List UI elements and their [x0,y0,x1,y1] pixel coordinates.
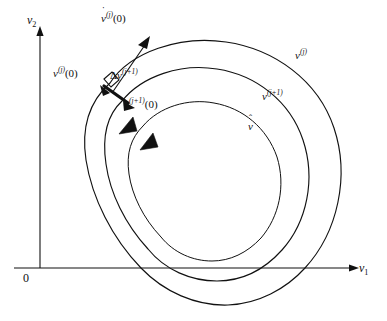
tangent-vector-arrowhead [138,36,150,49]
label-sup: (j) [300,47,307,56]
label-suffix: (0) [65,67,78,79]
label-v-jp1-0: v(j+1)(0) [124,99,158,110]
figure-canvas [0,0,387,321]
y-axis-arrowhead [36,26,43,36]
label-sup: (j) [58,65,65,74]
y-axis-label: v2 [27,14,36,26]
label-sup: (j+1) [267,88,283,97]
curve-label-inner: vˆ [248,121,253,132]
phase-plane-figure: v˙(j)(0) v(j)(0) Δv(j+1) v(j+1)(0) v(j) … [0,0,387,321]
label-sup: (j) [106,10,113,19]
label-sup: (j+1) [122,67,138,76]
label-delta-v-jp1: Δv(j+1) [110,70,138,81]
flow-arrowhead-inner [140,133,158,150]
origin-label: 0 [23,272,29,284]
flow-arrowhead-middle [119,117,137,134]
curve-inner-v-hat [128,102,281,261]
label-sup: (j+1) [129,96,145,105]
x-axis-label: v1 [359,262,368,274]
curve-label-outer: v(j) [295,50,307,61]
curve-label-middle: v(j+1) [262,91,283,102]
label-v-dot-j-0: v˙(j)(0) [101,13,126,24]
label-v-j-0: v(j)(0) [53,68,78,79]
x-axis-arrowhead [349,264,359,271]
label-sub: 1 [364,268,368,277]
label-suffix: (0) [145,98,158,110]
label-sub: 2 [32,20,36,29]
label-suffix: (0) [113,12,126,24]
